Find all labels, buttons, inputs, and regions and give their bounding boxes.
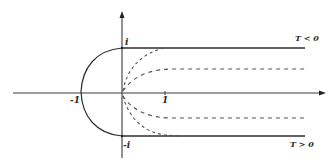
imaginary-axis-arrow-icon bbox=[120, 11, 125, 18]
point-minus-i bbox=[121, 135, 123, 137]
lower-dashed-inner bbox=[123, 96, 305, 118]
real-axis-arrow-icon bbox=[319, 91, 326, 96]
label-minus-i: -i bbox=[123, 141, 130, 150]
upper-dashed-inner bbox=[123, 48, 165, 91]
label-minus-one: -1 bbox=[70, 96, 80, 105]
label-t-positive: T > 0 bbox=[290, 140, 314, 148]
real-axis bbox=[13, 91, 326, 96]
point-i bbox=[121, 47, 123, 49]
label-one: 1 bbox=[162, 96, 168, 105]
label-i: i bbox=[125, 38, 128, 47]
contour-diagram bbox=[0, 0, 336, 165]
left-semicircle bbox=[81, 48, 122, 136]
label-t-negative: T < 0 bbox=[295, 34, 319, 42]
upper-dashed-outer bbox=[123, 69, 305, 91]
